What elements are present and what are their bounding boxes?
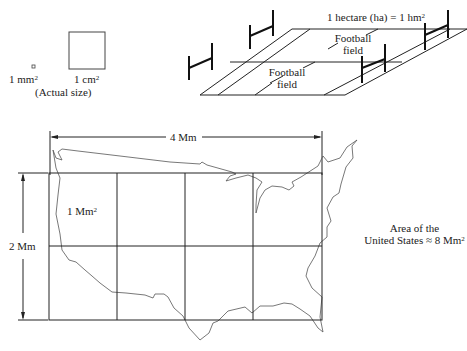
width-label: 4 Mm [170, 131, 197, 143]
mm2-label: 1 mm2 [9, 73, 38, 85]
cm2-square [69, 32, 105, 69]
football-field-label-top: Footballfield [328, 32, 378, 56]
cell-label: 1 Mm2 [67, 205, 97, 217]
area-label: Area of the United States ≈ 8 Mm2 [362, 222, 467, 246]
football-field-label-bottom: Footballfield [262, 66, 312, 90]
mm2-square [32, 65, 35, 68]
diagram-canvas [0, 0, 467, 351]
actual-size-caption: (Actual size) [35, 86, 92, 98]
cm2-label: 1 cm2 [74, 73, 99, 85]
mm2-grid [49, 173, 322, 320]
us-outline [53, 140, 357, 340]
height-label: 2 Mm [9, 240, 36, 252]
hectare-title: 1 hectare (ha) = 1 hm2 [327, 11, 425, 23]
